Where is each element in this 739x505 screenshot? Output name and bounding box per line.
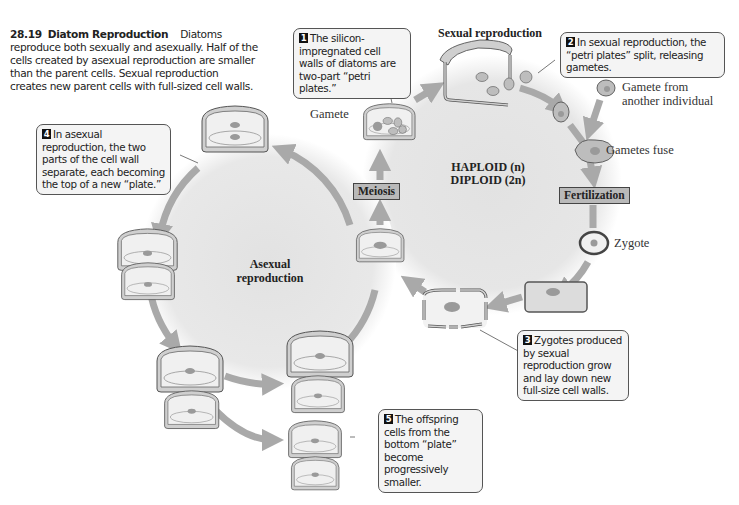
- fertilization-box: Fertilization: [559, 187, 630, 204]
- diatom-reproduction-figure: 28.19 Diatom Reproduction Diatoms reprod…: [0, 0, 739, 505]
- callout-step-1: 1The silicon-impregnated cell walls of d…: [293, 28, 411, 99]
- zygote-label: Zygote: [614, 236, 649, 250]
- callout-text-4: In asexual reproduction, the two parts o…: [42, 128, 165, 190]
- gametes-fuse-label: Gametes fuse: [606, 143, 674, 157]
- step-badge-2: 2: [566, 37, 575, 47]
- gamete-label: Gamete: [310, 107, 349, 121]
- haploid-label: HAPLOID (n): [438, 160, 538, 174]
- callout-step-3: 3Zygotes produced by sexual reproduction…: [517, 330, 629, 401]
- growing-zygote: [525, 282, 587, 312]
- step-badge-3: 3: [523, 335, 532, 345]
- step-badge-4: 4: [42, 129, 51, 139]
- diploid-label: DIPLOID (2n): [438, 173, 538, 187]
- step-badge-1: 1: [299, 33, 308, 43]
- gamete-other-label-line1: Gamete from: [622, 80, 688, 94]
- callout-text-1: The silicon-impregnated cell walls of di…: [299, 32, 396, 94]
- cell-with-gametes: [364, 104, 415, 140]
- callout-text-3: Zygotes produced by sexual reproduction …: [523, 334, 622, 396]
- callout-step-4: 4In asexual reproduction, the two parts …: [36, 124, 171, 195]
- step-badge-5: 5: [384, 414, 393, 424]
- parent-diatom-cell: [202, 106, 268, 152]
- figure-title: Diatom Reproduction: [48, 28, 168, 40]
- asexual-label-line1: Asexual: [220, 257, 320, 271]
- figure-caption: 28.19 Diatom Reproduction Diatoms reprod…: [10, 28, 258, 93]
- figure-number: 28.19: [10, 28, 42, 40]
- callout-step-5: 5The offspring cells from the bottom “pl…: [378, 409, 483, 493]
- callout-step-2: 2In sexual reproduction, the “petri plat…: [560, 32, 725, 78]
- meiosis-box: Meiosis: [353, 183, 400, 200]
- callout-text-5: The offspring cells from the bottom “pla…: [384, 413, 458, 488]
- callout-text-2: In sexual reproduction, the “petri plate…: [566, 36, 706, 73]
- gamete-other-label-line2: another individual: [622, 94, 713, 108]
- sexual-reproduction-heading: Sexual reproduction: [430, 26, 550, 40]
- asexual-label-line2: reproduction: [220, 271, 320, 285]
- zygote-new-walls: [423, 290, 487, 328]
